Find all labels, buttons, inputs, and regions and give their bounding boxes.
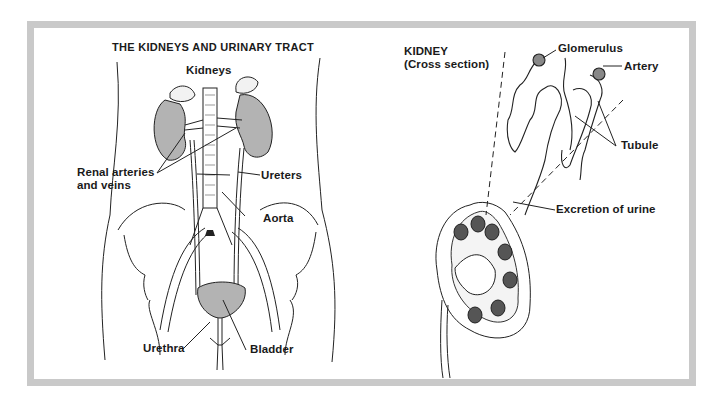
label-bladder: Bladder — [250, 343, 294, 356]
label-aorta: Aorta — [263, 212, 294, 225]
right-title-line1: KIDNEY — [404, 45, 489, 58]
label-glomerulus: Glomerulus — [558, 42, 623, 55]
left-panel-title: THE KIDNEYS AND URINARY TRACT — [112, 41, 314, 54]
right-title-line2: (Cross section) — [404, 58, 489, 71]
kidney-cross-section — [436, 202, 530, 378]
label-tubule: Tubule — [621, 139, 658, 152]
label-renal-arteries: Renal arteries and veins — [77, 166, 154, 192]
aorta — [190, 88, 232, 245]
right-panel-title: KIDNEY (Cross section) — [404, 45, 489, 71]
bladder — [198, 282, 246, 370]
nephron — [507, 54, 605, 215]
pelvis-right — [260, 203, 318, 355]
label-renal-line1: Renal arteries — [77, 166, 154, 179]
kidney-left — [154, 86, 195, 160]
label-excretion-of-urine: Excretion of urine — [556, 203, 656, 216]
label-renal-line2: and veins — [77, 179, 154, 192]
right-leader-lines — [513, 50, 622, 210]
kidney-right — [236, 77, 273, 157]
pelvis-left — [118, 203, 185, 355]
label-urethra: Urethra — [143, 342, 185, 355]
label-kidneys: Kidneys — [186, 64, 231, 77]
label-artery: Artery — [624, 60, 658, 73]
label-ureters: Ureters — [261, 169, 302, 182]
